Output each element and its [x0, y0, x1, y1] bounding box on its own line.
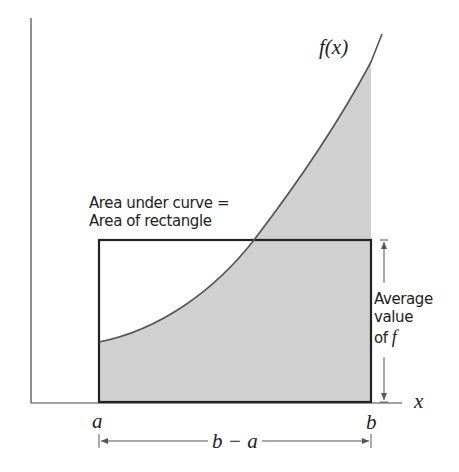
- shaded-area: [99, 62, 371, 402]
- average-value-diagram: f(x) x a b b − a Area under curve = Area…: [0, 0, 459, 472]
- width-label: b − a: [212, 431, 258, 452]
- function-label: f(x): [319, 37, 348, 58]
- diagram-graphic: [0, 0, 459, 472]
- area-annotation-line2: Area of rectangle: [89, 214, 212, 229]
- x-axis-label: x: [414, 391, 423, 412]
- left-bound-label: a: [92, 411, 103, 432]
- right-bound-label: b: [366, 412, 377, 433]
- avg-annotation-line1: Average: [374, 292, 433, 307]
- area-annotation-line1: Area under curve =: [89, 196, 229, 211]
- avg-annotation-line2: value: [374, 310, 413, 325]
- avg-annotation-line3: of f: [374, 328, 397, 346]
